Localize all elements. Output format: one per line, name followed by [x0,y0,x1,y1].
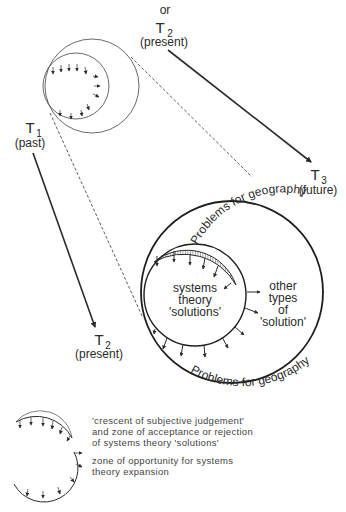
arrow-t1-to-t2 [33,153,95,327]
svg-text:of systems theory 'solutions': of systems theory 'solutions' [92,437,219,448]
svg-text:and zone of acceptance or reje: and zone of acceptance or rejection [92,426,253,437]
past-arrows [53,64,100,119]
arrow-t2-to-t3 [168,50,311,162]
arc-label-top: Problems for geography [187,182,307,247]
svg-text:T: T [25,119,34,136]
svg-text:theory expansion: theory expansion [92,466,169,477]
svg-text:'solutions': 'solutions' [169,305,221,319]
label-t1: T 1 (past) [15,119,46,150]
hatched-crescent-icon [16,411,72,441]
present-circle-group: systems theory 'solutions' other types o… [141,182,323,390]
svg-text:'solution': 'solution' [260,315,306,329]
label-t2-top: or T 2 (present) [140,3,188,49]
svg-text:'crescent of subjective judgem: 'crescent of subjective judgement' [92,415,244,426]
svg-text:(present): (present) [75,347,123,361]
legend: 'crescent of subjective judgement' and z… [14,411,253,502]
crescent-of-subjective-judgement [154,250,236,285]
label-t2-bottom: T 2 (present) [75,331,123,361]
arrow-arc-icon [14,452,82,502]
past-circle-group [43,39,139,133]
svg-text:T: T [94,331,103,348]
svg-text:T: T [155,19,164,36]
projection-line-top [131,57,252,177]
svg-text:zone of opportunity for system: zone of opportunity for systems [92,455,233,466]
svg-text:(past): (past) [15,136,46,150]
svg-text:T: T [310,166,319,183]
projection-line-bottom [50,113,143,318]
svg-text:(present): (present) [140,35,188,49]
past-outer-circle [45,39,139,133]
diagram-canvas: or T 2 (present) T 1 (past) T 3 (future)… [0,0,346,512]
svg-text:or: or [160,3,171,17]
